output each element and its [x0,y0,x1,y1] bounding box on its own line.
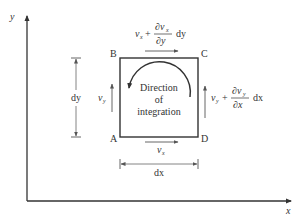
diagram-svg: y x B C A D Direction of integration v x… [0,0,306,221]
center-text-line2: of [155,94,164,105]
right-velocity-sub: y [215,98,219,104]
diagram-canvas: y x B C A D Direction of integration v x… [0,0,306,221]
y-axis-label: y [9,11,15,22]
right-velocity-num: ∂v [232,85,242,96]
right-velocity-num-sub: y [242,91,246,97]
top-velocity-num: ∂v [155,21,165,32]
top-velocity: v x + ∂v x ∂y dy [135,21,186,51]
right-velocity-den: ∂x [233,99,243,110]
corner-label-a: A [110,133,118,144]
corner-label-c: C [201,48,208,59]
dy-label: dy [71,92,81,103]
right-velocity: v y + ∂v y ∂x dx [205,85,263,118]
height-dimension: dy [71,58,81,137]
corner-label-d: D [201,133,208,144]
top-velocity-num-sub: x [165,27,169,33]
corner-label-b: B [110,48,117,59]
bottom-velocity: v x [145,142,178,156]
right-velocity-tail: dx [253,92,263,103]
top-velocity-den: ∂y [156,35,166,46]
dx-label: dx [154,167,164,178]
left-velocity-sub: y [102,98,106,104]
x-axis-label: x [285,205,291,216]
top-velocity-sub: x [139,34,143,40]
center-text-line1: Direction [140,82,178,93]
center-text-line3: integration [137,106,180,117]
bottom-velocity-sub: x [161,150,165,156]
left-velocity: v y [98,84,112,112]
top-velocity-tail: dy [176,28,186,39]
top-velocity-plus: + [145,28,151,39]
width-dimension: dx [120,159,198,178]
right-velocity-plus: + [222,92,228,103]
